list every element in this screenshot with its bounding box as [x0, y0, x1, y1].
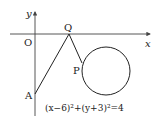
- segment-AQ: [35, 34, 69, 94]
- diagram: y x O Q A P (x−6)²+(y+3)²=4: [0, 0, 158, 122]
- circle: [82, 47, 130, 95]
- point-label-a: A: [24, 90, 33, 101]
- circle-equation: (x−6)²+(y+3)²=4: [45, 103, 124, 113]
- point-label-q: Q: [64, 22, 72, 33]
- x-axis-label: x: [145, 38, 151, 49]
- segment-QP: [69, 34, 82, 63]
- y-axis-label: y: [25, 8, 32, 19]
- point-label-p: P: [73, 65, 80, 76]
- origin-label: O: [24, 37, 32, 48]
